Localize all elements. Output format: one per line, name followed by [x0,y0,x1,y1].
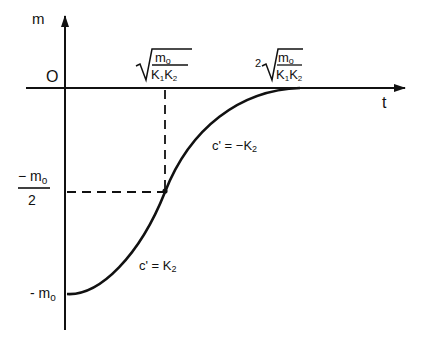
y-axis-label: m [32,10,45,27]
svg-text:2: 2 [255,57,261,69]
svg-text:K1K2: K1K2 [151,67,178,83]
inflection-point [162,188,167,193]
svg-text:mo: mo [278,50,294,66]
x-tick-2sqrt: 2 mo K1K2 [255,49,303,83]
svg-text:mo: mo [155,50,171,66]
y-tick-min: - mo [30,285,56,303]
x-tick-sqrt: mo K1K2 [136,49,192,83]
svg-text:− mo: − mo [18,168,48,186]
annotation-upper: c' = −K2 [212,138,257,154]
svg-text:K1K2: K1K2 [276,67,303,83]
y-tick-half: − mo 2 [18,168,50,208]
curve [67,88,300,294]
x-axis-label: t [382,94,387,111]
diagram-canvas: m t O − mo 2 - mo mo K1K2 2 mo K1K2 c' =… [0,0,426,340]
annotation-lower: c' = K2 [139,258,176,274]
svg-text:2: 2 [28,192,36,208]
origin-label: O [46,68,58,85]
